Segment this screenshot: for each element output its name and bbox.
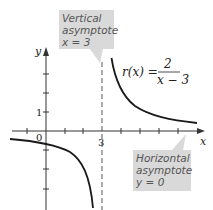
y-axis-arrow-icon [43, 47, 49, 56]
horizontal-asymptote-callout: Horizontal asymptote y = 0 [133, 134, 192, 191]
rational-function-graph: Vertical asymptote x = 3 Horizontal asym… [0, 0, 213, 210]
function-numerator: 2 [163, 57, 172, 71]
vertical-callout-line2: asymptote [62, 24, 118, 36]
y-tick-label-1: 1 [36, 107, 42, 118]
function-label: r(x) = 2 x − 3 [122, 57, 189, 87]
function-denominator: x − 3 [157, 73, 189, 87]
vertical-callout-line3: x = 3 [61, 36, 90, 48]
horizontal-callout-line3: y = 0 [135, 176, 165, 188]
y-axis: y 1 [34, 45, 49, 210]
y-axis-label: y [34, 45, 42, 58]
x-tick-label-3: 3 [98, 137, 104, 148]
horizontal-callout-line1: Horizontal [136, 152, 190, 164]
vertical-asymptote-callout: Vertical asymptote x = 3 [59, 10, 118, 63]
vertical-callout-line1: Vertical [62, 12, 102, 24]
curve-left-branch [10, 139, 93, 208]
x-axis-arrow-icon [197, 128, 205, 134]
horizontal-callout-line2: asymptote [136, 164, 192, 176]
function-lhs: r(x) = [122, 65, 158, 79]
x-axis-label: x [200, 135, 207, 148]
